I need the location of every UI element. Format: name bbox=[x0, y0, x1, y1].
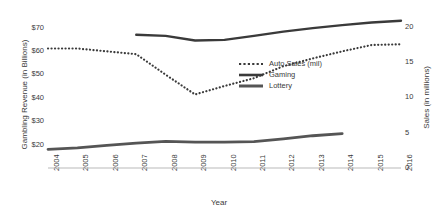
legend-label-gaming: Gaming bbox=[269, 69, 295, 80]
series-line-gaming bbox=[136, 21, 401, 41]
legend-item-gaming: Gaming bbox=[238, 69, 322, 80]
series-layer bbox=[48, 21, 401, 150]
legend-swatch-lottery bbox=[238, 81, 264, 91]
legend-swatch-auto-sales bbox=[238, 59, 264, 69]
legend-item-auto-sales: Auto Sales (mil) bbox=[238, 58, 322, 69]
legend: Auto Sales (mil) Gaming Lottery bbox=[238, 58, 322, 91]
plot-area bbox=[0, 0, 438, 213]
series-line-lottery bbox=[48, 134, 342, 150]
legend-label-auto-sales: Auto Sales (mil) bbox=[269, 58, 322, 69]
series-line-auto-sales-mil bbox=[48, 44, 401, 94]
legend-label-lottery: Lottery bbox=[269, 80, 292, 91]
legend-swatch-gaming bbox=[238, 70, 264, 80]
chart-container: Gambling Revenue (in Billions) Sales (in… bbox=[0, 0, 438, 213]
legend-item-lottery: Lottery bbox=[238, 80, 322, 91]
